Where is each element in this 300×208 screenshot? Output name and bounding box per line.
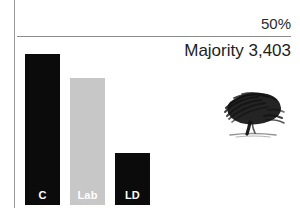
bar-label-conservative: C [25, 189, 60, 201]
bar-libdem: LD [115, 153, 150, 205]
bar-label-labour: Lab [70, 189, 105, 201]
oak-tree-icon [216, 86, 288, 138]
majority-threshold-line [17, 36, 291, 37]
threshold-percent-label: 50% [261, 15, 291, 32]
bar-labour: Lab [70, 78, 105, 205]
majority-value-label: Majority 3,403 [184, 41, 291, 61]
election-bar-chart: 50% Majority 3,403 C Lab LD [0, 0, 300, 208]
bar-conservative: C [25, 54, 60, 205]
left-axis-rule [14, 0, 15, 208]
bar-label-libdem: LD [115, 189, 150, 201]
